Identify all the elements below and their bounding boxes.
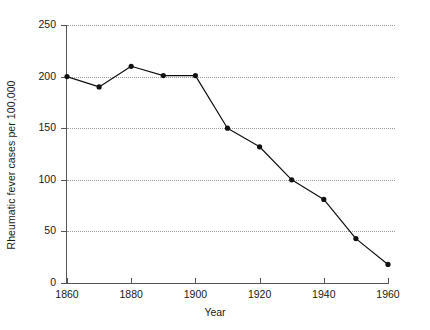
- data-point-1930: [289, 177, 294, 182]
- data-point-1880: [129, 64, 134, 69]
- series-line-rheumatic-fever: [67, 66, 388, 264]
- data-point-1910: [225, 126, 230, 131]
- data-point-1950: [353, 236, 358, 241]
- data-point-1940: [321, 197, 326, 202]
- data-point-1920: [257, 144, 262, 149]
- data-point-1890: [161, 73, 166, 78]
- series-markers: [64, 64, 390, 267]
- data-point-1860: [64, 74, 69, 79]
- rheumatic-fever-line-chart: Rheumatic fever cases per 100,000 Year 0…: [0, 0, 430, 330]
- data-point-1900: [193, 73, 198, 78]
- data-point-1960: [385, 262, 390, 267]
- data-series-layer: [0, 0, 430, 330]
- data-point-1870: [97, 84, 102, 89]
